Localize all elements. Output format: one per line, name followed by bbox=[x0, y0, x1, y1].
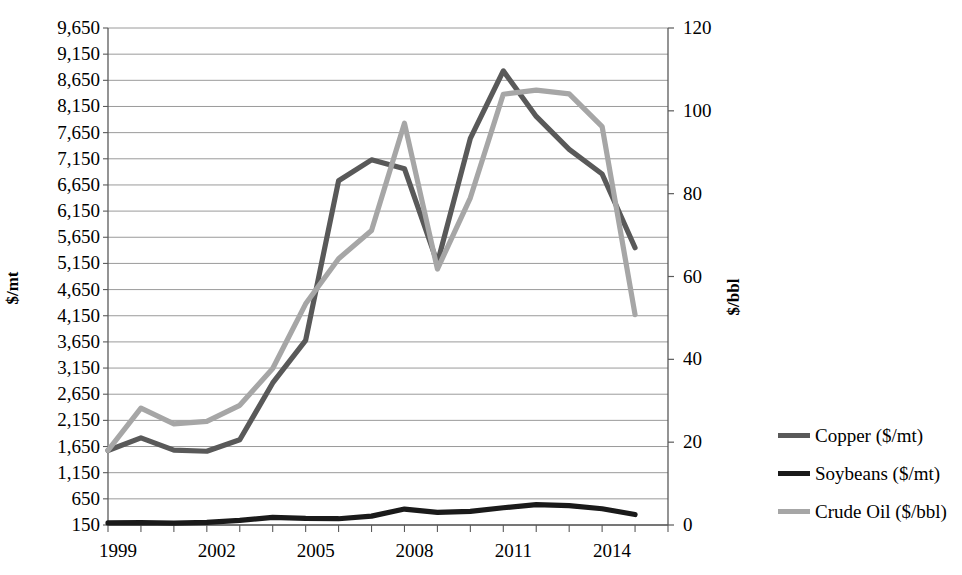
chart-legend: Copper ($/mt)Soybeans ($/mt)Crude Oil ($… bbox=[778, 416, 962, 530]
legend-item[interactable]: Soybeans ($/mt) bbox=[778, 454, 962, 492]
legend-item[interactable]: Copper ($/mt) bbox=[778, 416, 962, 454]
legend-swatch-icon bbox=[778, 471, 810, 476]
series-line-2 bbox=[108, 90, 635, 450]
legend-item-label: Soybeans ($/mt) bbox=[815, 464, 940, 483]
legend-swatch-icon bbox=[778, 433, 810, 438]
chart-container: $/mt $/bbl 9,6509,1508,6508,1507,6507,15… bbox=[0, 0, 962, 575]
series-line-1 bbox=[108, 505, 635, 524]
legend-item[interactable]: Crude Oil ($/bbl) bbox=[778, 492, 962, 530]
legend-item-label: Crude Oil ($/bbl) bbox=[815, 502, 947, 521]
legend-item-label: Copper ($/mt) bbox=[815, 426, 923, 445]
legend-swatch-icon bbox=[778, 509, 810, 514]
